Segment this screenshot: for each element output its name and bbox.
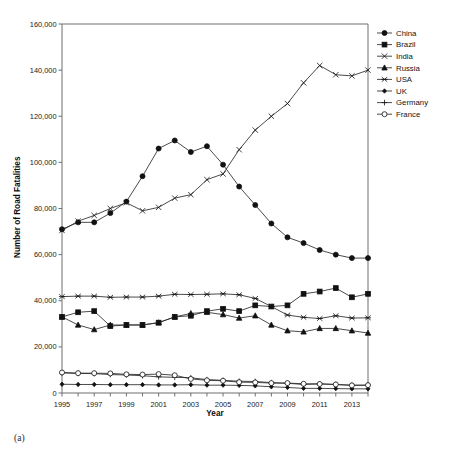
figure-caption-layer: (a) (0, 0, 457, 454)
figure-caption: (a) (14, 433, 25, 444)
figure-panel: Number of Road Fatalities Year 020,00040… (0, 0, 457, 454)
